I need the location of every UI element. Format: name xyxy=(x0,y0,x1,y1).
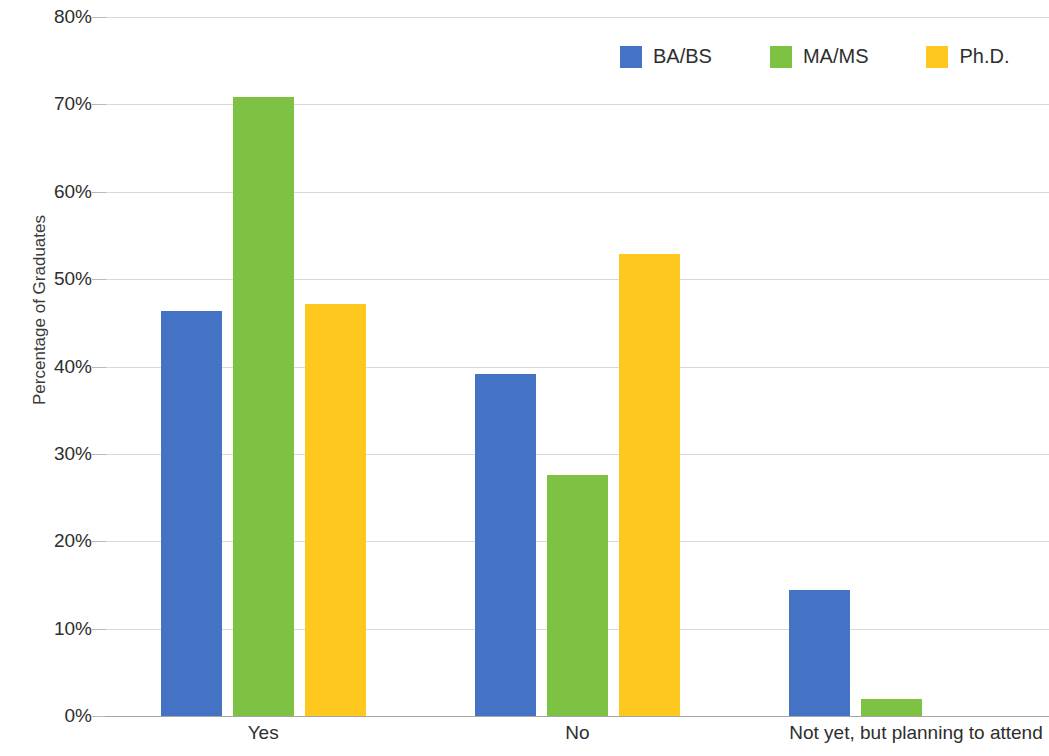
legend-swatch-icon xyxy=(620,46,642,68)
bar-ma-ms-1 xyxy=(233,97,294,716)
y-tick-label: 60% xyxy=(16,181,92,203)
legend-label: BA/BS xyxy=(653,45,712,68)
y-tick-label: 0% xyxy=(16,705,92,727)
y-tick-mark xyxy=(92,716,106,717)
legend-item: Ph.D. xyxy=(926,45,1009,68)
y-tick-mark xyxy=(92,454,106,455)
bar-ba-bs-1 xyxy=(161,311,222,716)
bar-ma-ms-2 xyxy=(547,475,608,716)
y-tick-label: 50% xyxy=(16,268,92,290)
y-tick-mark xyxy=(92,192,106,193)
gridline xyxy=(106,17,1049,18)
axis-baseline xyxy=(106,716,1049,717)
y-tick-label: 20% xyxy=(16,530,92,552)
bar-ph-d--2 xyxy=(619,254,680,716)
x-tick-label: No xyxy=(565,722,589,744)
legend-item: BA/BS xyxy=(620,45,712,68)
plot-area xyxy=(106,0,1049,756)
legend-label: MA/MS xyxy=(803,45,869,68)
y-tick-label: 10% xyxy=(16,618,92,640)
bar-ph-d--1 xyxy=(305,304,366,716)
legend-swatch-icon xyxy=(770,46,792,68)
y-tick-mark xyxy=(92,367,106,368)
y-tick-label: 40% xyxy=(16,356,92,378)
y-tick-label: 70% xyxy=(16,93,92,115)
legend-swatch-icon xyxy=(926,46,948,68)
legend-label: Ph.D. xyxy=(959,45,1009,68)
bar-ba-bs-2 xyxy=(475,374,536,717)
y-tick-label: 80% xyxy=(16,6,92,28)
legend: BA/BSMA/MSPh.D. xyxy=(620,45,1010,68)
y-tick-mark xyxy=(92,279,106,280)
y-tick-mark xyxy=(92,629,106,630)
y-axis-ticks: 0%10%20%30%40%50%60%70%80% xyxy=(0,0,92,756)
y-tick-label: 30% xyxy=(16,443,92,465)
legend-item: MA/MS xyxy=(770,45,869,68)
y-tick-mark xyxy=(92,17,106,18)
bar-ma-ms-3 xyxy=(861,699,922,716)
bar-ba-bs-3 xyxy=(789,590,850,716)
y-tick-mark xyxy=(92,104,106,105)
bar-chart: Percentage of Graduates 0%10%20%30%40%50… xyxy=(0,0,1049,756)
x-tick-label: Yes xyxy=(248,722,279,744)
y-tick-mark xyxy=(92,541,106,542)
x-tick-label: Not yet, but planning to attend xyxy=(789,722,1043,744)
